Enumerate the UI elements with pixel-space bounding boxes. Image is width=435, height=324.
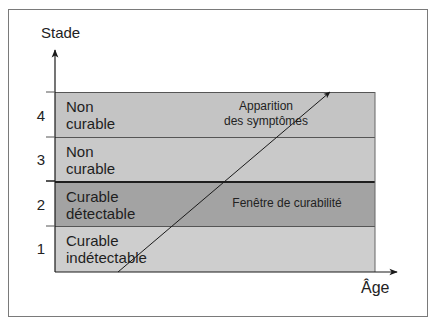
x-axis-title: Âge [361,279,389,297]
axes-overlay [0,0,435,324]
y-axis-title: Stade [41,24,80,41]
progression-arrow-icon [118,92,330,272]
